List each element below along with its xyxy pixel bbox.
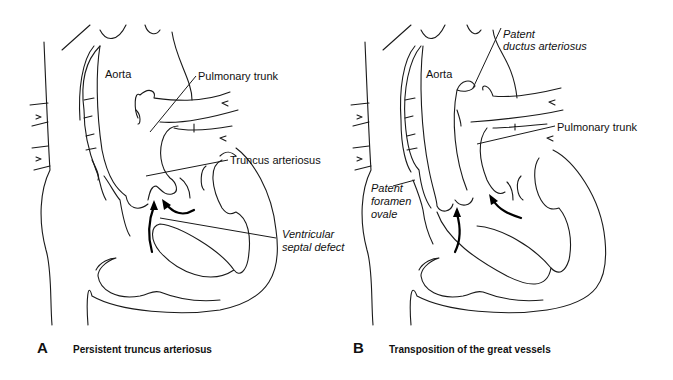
caption-b: B Transposition of the great vessels (353, 339, 551, 356)
label-vsd-line2: septal defect (282, 241, 344, 253)
caption-a: A Persistent truncus arteriosus (37, 339, 212, 356)
label-truncus-arteriosus: Truncus arteriosus (230, 154, 321, 166)
panel-a-truncus-arteriosus: Aorta Pulmonary trunk Truncus arteriosus… (0, 0, 336, 330)
label-aorta: Aorta (426, 68, 452, 80)
label-pda-line2: ductus arteriosus (503, 40, 587, 52)
label-pda-line1: Patent (503, 28, 535, 40)
label-pulmonary-trunk: Pulmonary trunk (557, 121, 637, 133)
caption-text-a: Persistent truncus arteriosus (73, 344, 212, 355)
label-pulmonary-trunk: Pulmonary trunk (198, 70, 278, 82)
caption-text-b: Transposition of the great vessels (389, 344, 551, 355)
label-aorta: Aorta (105, 68, 131, 80)
panel-letter-b: B (353, 339, 389, 356)
label-pfo-line1: Patent (371, 182, 403, 194)
panel-letter-a: A (37, 339, 73, 356)
panel-b-transposition: Patent ductus arteriosus Aorta Pulmonary… (337, 0, 673, 330)
label-pfo-line3: ovale (371, 208, 397, 220)
label-vsd-line1: Ventricular (282, 228, 334, 240)
label-pfo-line2: foramen (371, 195, 411, 207)
